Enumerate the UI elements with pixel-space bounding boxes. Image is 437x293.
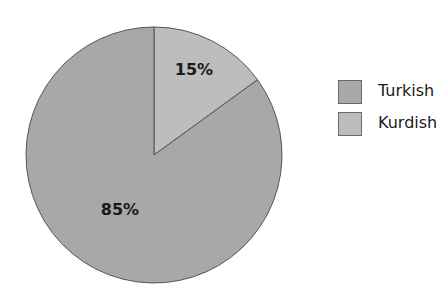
pie-chart: 15%85% bbox=[0, 0, 310, 293]
legend-swatch-kurdish bbox=[338, 112, 362, 136]
legend-label: Turkish bbox=[378, 81, 434, 100]
slice-label-kurdish: 15% bbox=[175, 60, 213, 79]
legend-swatch-turkish bbox=[338, 80, 362, 104]
legend-label: Kurdish bbox=[378, 113, 437, 132]
slice-label-turkish: 85% bbox=[101, 200, 139, 219]
